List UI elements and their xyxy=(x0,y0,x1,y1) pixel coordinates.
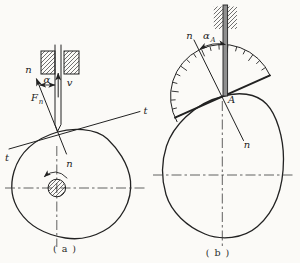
camshaft-hub xyxy=(48,179,66,197)
protractor-tick xyxy=(248,55,252,61)
protractor-tick xyxy=(171,91,178,92)
protractor-tick xyxy=(176,74,180,76)
protractor-tick xyxy=(194,54,197,58)
protractor-tick xyxy=(173,108,177,109)
cam-pressure-angle-diagram: n α v F n t t n ( a ) n α A A n ( b ) xyxy=(0,0,300,263)
label-contact-point: A xyxy=(227,94,235,105)
protractor-tick xyxy=(181,66,187,70)
protractor-tick xyxy=(210,47,211,51)
label-normal-top-b: n xyxy=(186,30,192,41)
rotation-arrow-icon xyxy=(45,172,68,178)
protractor-tick xyxy=(256,61,259,64)
label-pressure-angle-b: α xyxy=(203,30,210,41)
panel-a: n α v F n t t n ( a ) xyxy=(5,45,149,254)
normal-line-lower-a xyxy=(58,132,67,155)
tangent-line-a xyxy=(9,112,140,150)
caption-a: ( a ) xyxy=(53,243,77,254)
panel-b: n α A A n ( b ) xyxy=(153,5,293,258)
rod-hatch-right xyxy=(228,7,237,30)
protractor-tick xyxy=(173,82,177,83)
figure-canvas: n α v F n t t n ( a ) n α A A n ( b ) xyxy=(0,0,300,263)
label-tangent-left: t xyxy=(5,152,10,163)
protractor-tick xyxy=(262,68,266,71)
protractor-tick xyxy=(236,47,237,51)
follower-rod-b xyxy=(223,5,228,96)
label-force-subscript: n xyxy=(39,98,44,106)
label-velocity: v xyxy=(67,77,73,88)
label-pressure-angle-a: α xyxy=(44,74,51,85)
label-pressure-angle-b-subscript: A xyxy=(209,36,215,44)
protractor-tick xyxy=(243,50,245,54)
label-normal-bottom-b: n xyxy=(244,139,250,150)
label-normal-top-a: n xyxy=(25,64,31,75)
guide-block-left xyxy=(41,51,55,74)
protractor-tick xyxy=(187,60,190,63)
rod-hatch-left xyxy=(214,7,223,30)
label-tangent-right: t xyxy=(143,105,148,116)
cam-profile-a xyxy=(12,129,131,238)
label-normal-bottom-a: n xyxy=(66,158,72,169)
guide-block-right xyxy=(64,51,79,74)
caption-b: ( b ) xyxy=(206,247,231,258)
label-force: F xyxy=(30,92,39,103)
